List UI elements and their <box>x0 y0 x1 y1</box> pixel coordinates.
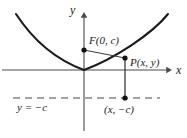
focus-point-dot <box>81 47 86 52</box>
y-axis-label: y <box>70 4 75 16</box>
point-p-label: P(x, y) <box>130 57 159 68</box>
parabola-figure: y x F(0, c) P(x, y) y = −c (x, −c) <box>0 0 187 138</box>
figure-canvas <box>0 0 187 138</box>
directrix-label: y = −c <box>17 102 47 113</box>
foot-point-label: (x, −c) <box>104 104 134 115</box>
point-p-dot <box>122 55 127 60</box>
x-axis-label: x <box>176 64 181 76</box>
focus-point-label: F(0, c) <box>89 35 119 46</box>
foot-point-dot <box>122 95 127 100</box>
